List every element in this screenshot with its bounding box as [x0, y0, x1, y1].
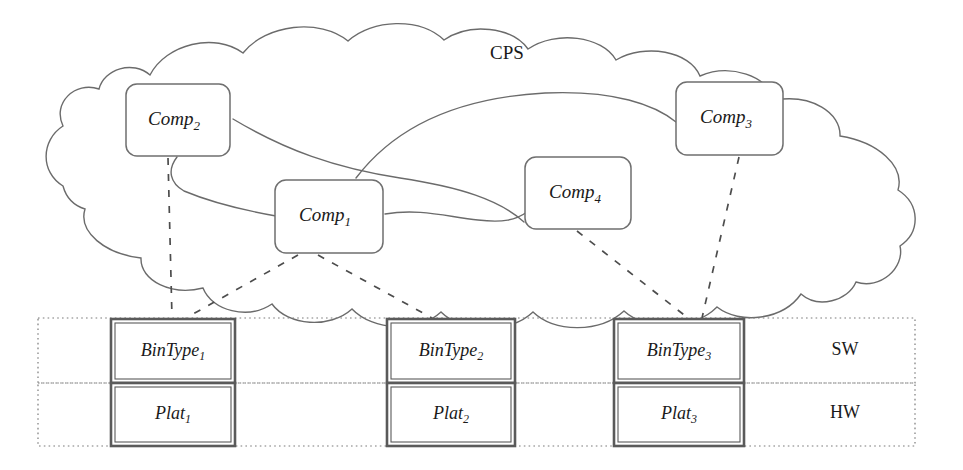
comp3-label: Comp3: [700, 106, 752, 131]
cps-cloud-label: CPS: [490, 42, 524, 63]
hw-layer-label: HW: [830, 402, 860, 422]
bintype2-label: BinType2: [419, 340, 484, 363]
component-comp4[interactable]: Comp4: [525, 157, 631, 229]
cps-cloud-group: CPS: [46, 24, 915, 329]
comp4-label: Comp4: [549, 181, 601, 206]
cps-architecture-diagram: CPS Comp2 Comp3: [0, 0, 963, 470]
cps-cloud-outline: [46, 24, 915, 329]
stack-3[interactable]: BinType3 Plat3: [614, 319, 744, 446]
comp1-label: Comp1: [299, 204, 351, 229]
bintype1-label: BinType1: [141, 340, 206, 363]
sw-layer-label: SW: [832, 339, 859, 359]
component-comp1[interactable]: Comp1: [275, 180, 383, 253]
comp2-label: Comp2: [148, 108, 200, 133]
component-comp3[interactable]: Comp3: [676, 82, 783, 155]
diagram-canvas: CPS Comp2 Comp3: [0, 0, 963, 470]
stack-1[interactable]: BinType1 Plat1: [111, 319, 235, 446]
bintype3-label: BinType3: [647, 340, 712, 363]
stack-2[interactable]: BinType2 Plat2: [387, 319, 515, 446]
component-comp2[interactable]: Comp2: [126, 84, 230, 156]
